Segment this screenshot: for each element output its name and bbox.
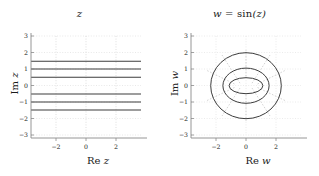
w-xtick-0: 0 <box>244 143 248 150</box>
z-axis-label-x-italic: z <box>104 155 109 166</box>
z-xtick-labels: −2 0 2 <box>51 143 118 150</box>
w-axis-label-y-italic: w <box>169 71 180 80</box>
z-ytick-2: 2 <box>24 49 28 56</box>
conformal-map-figure: z <box>0 0 319 176</box>
w-ytick-neg1: −1 <box>179 98 188 105</box>
z-ytick-neg1: −1 <box>19 98 28 105</box>
z-axis-label-y: Im z <box>9 64 20 104</box>
w-ytick-3: 3 <box>184 32 188 39</box>
w-ytick-1: 1 <box>184 65 188 72</box>
w-axis-label-y-roman: Im <box>169 83 180 96</box>
w-xtick-2: 2 <box>274 143 278 150</box>
z-xtick-neg2: −2 <box>51 143 60 150</box>
w-axis-label-y: Im w <box>169 64 180 104</box>
z-yticks <box>31 36 34 135</box>
panel-z-plane: z <box>0 0 159 176</box>
w-xtick-neg2: −2 <box>211 143 220 150</box>
z-ytick-0: 0 <box>24 82 28 89</box>
z-plane-canvas: 3 2 1 0 −1 −2 −3 −2 0 2 <box>0 0 159 176</box>
w-axis-label-x-italic: w <box>262 155 271 166</box>
z-axis-label-y-roman: Im <box>9 81 20 94</box>
z-ytick-neg2: −2 <box>19 115 28 122</box>
w-axis-label-x-roman: Re <box>245 155 258 166</box>
z-ytick-3: 3 <box>24 32 28 39</box>
w-ytick-2: 2 <box>184 49 188 56</box>
z-xtick-2: 2 <box>114 143 118 150</box>
w-ytick-0: 0 <box>184 82 188 89</box>
w-axis-label-x: Re w <box>200 155 316 166</box>
z-axis-label-y-italic: z <box>9 73 20 78</box>
w-plane-canvas: 3 2 1 0 −1 −2 −3 −2 0 2 <box>160 0 319 176</box>
z-ytick-neg3: −3 <box>19 131 28 138</box>
w-ytick-neg3: −3 <box>179 131 188 138</box>
w-ytick-neg2: −2 <box>179 115 188 122</box>
z-ytick-labels: 3 2 1 0 −1 −2 −3 <box>19 32 28 138</box>
panel-w-plane: w = sin(z) <box>160 0 319 176</box>
z-ytick-1: 1 <box>24 65 28 72</box>
z-xtick-0: 0 <box>84 143 88 150</box>
z-axis-label-x: Re z <box>40 155 156 166</box>
z-axis-label-x-roman: Re <box>87 155 100 166</box>
w-ytick-labels: 3 2 1 0 −1 −2 −3 <box>179 32 188 138</box>
w-xtick-labels: −2 0 2 <box>211 143 278 150</box>
